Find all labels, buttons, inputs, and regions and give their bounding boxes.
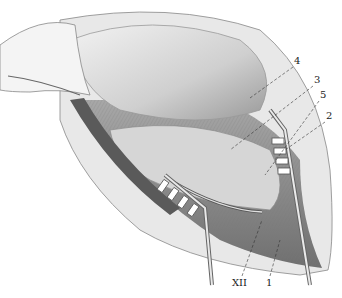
label-XII: XII <box>232 278 247 288</box>
illustration-drawing <box>0 0 342 298</box>
label-4: 4 <box>294 56 300 66</box>
label-5: 5 <box>320 90 326 100</box>
label-3: 3 <box>314 75 320 85</box>
label-2: 2 <box>326 111 332 121</box>
label-1: 1 <box>266 278 272 288</box>
anatomical-illustration: 4 3 5 2 XII 1 <box>0 0 342 298</box>
